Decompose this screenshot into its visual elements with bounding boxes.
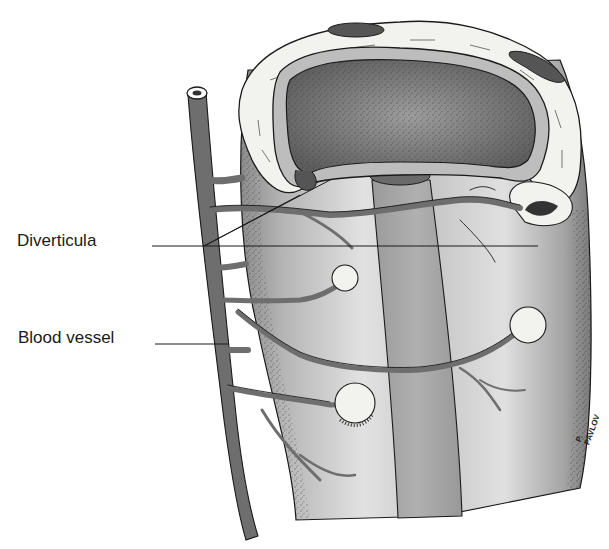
label-blood-vessel: Blood vessel xyxy=(18,328,114,348)
diverticulum-2 xyxy=(510,307,546,343)
colon-illustration xyxy=(0,0,609,549)
label-diverticula: Diverticula xyxy=(17,231,96,251)
diverticulum-1 xyxy=(332,265,358,291)
diverticula-diagram: Diverticula Blood vessel P. PAVLOV xyxy=(0,0,609,549)
